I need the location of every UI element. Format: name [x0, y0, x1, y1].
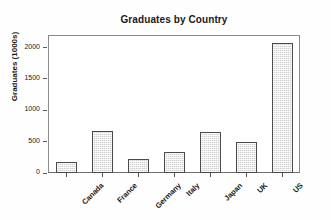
bar-france — [92, 131, 113, 173]
x-axis-tick-mark — [282, 173, 283, 177]
y-axis-tick-mark — [43, 173, 47, 174]
y-axis-tick-label: 1500 — [0, 74, 40, 81]
x-axis-tick-label: Germany — [154, 181, 183, 210]
x-axis-tick-label: Canada — [80, 181, 106, 207]
x-axis-tick-mark — [138, 173, 139, 177]
x-axis-tick-mark — [246, 173, 247, 177]
y-axis-tick-mark — [43, 47, 47, 48]
x-axis-tick-label: US — [291, 181, 305, 195]
bar-chart: Graduates by Country Graduates (1000s) 0… — [0, 0, 331, 220]
x-axis-tick-label: France — [115, 181, 139, 205]
y-axis-tick-mark — [43, 141, 47, 142]
bar-canada — [56, 162, 77, 173]
bar-us — [272, 43, 293, 173]
y-axis-tick-label: 2000 — [0, 43, 40, 50]
bar-japan — [200, 132, 221, 173]
x-axis-tick-label: Italy — [184, 181, 201, 198]
y-axis-tick-mark — [43, 78, 47, 79]
y-axis-tick-label: 1000 — [0, 105, 40, 112]
x-axis-tick-mark — [210, 173, 211, 177]
y-axis-tick-label: 500 — [0, 137, 40, 144]
bar-uk — [236, 142, 257, 173]
y-axis-tick-mark — [43, 110, 47, 111]
x-axis-tick-label: Japan — [222, 181, 244, 203]
bar-germany — [128, 159, 149, 173]
bar-italy — [164, 152, 185, 173]
x-axis-tick-mark — [102, 173, 103, 177]
y-axis-tick-label: 0 — [0, 168, 40, 175]
x-axis-tick-label: UK — [255, 181, 269, 195]
x-axis-tick-mark — [174, 173, 175, 177]
x-axis-tick-mark — [66, 173, 67, 177]
chart-title: Graduates by Country — [48, 14, 300, 25]
